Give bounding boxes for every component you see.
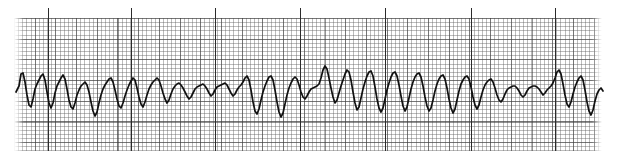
ecg-grid-paper	[14, 18, 602, 151]
interval-marker-tick-6	[555, 8, 556, 151]
interval-marker-tick-3	[300, 8, 301, 151]
interval-marker-tick-1	[131, 8, 132, 151]
interval-marker-tick-5	[471, 8, 472, 151]
interval-marker-tick-4	[385, 8, 386, 151]
ecg-rhythm-strip	[0, 0, 618, 162]
interval-marker-tick-0	[48, 8, 49, 151]
interval-marker-tick-2	[215, 8, 216, 151]
